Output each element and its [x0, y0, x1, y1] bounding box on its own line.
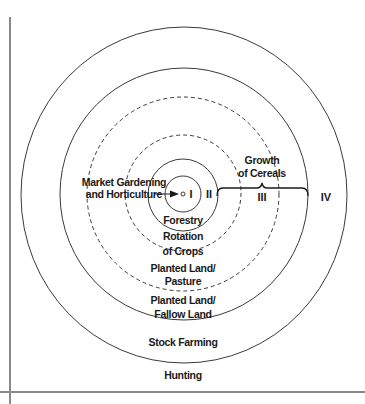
label-rotation: Rotation	[163, 230, 203, 242]
label-fallow-land: Fallow Land	[154, 308, 211, 320]
label-planted-land-fallow: Planted Land/	[151, 294, 216, 306]
label-hunting: Hunting	[164, 369, 202, 381]
zone-numeral-IV: IV	[321, 191, 332, 203]
label-forestry: Forestry	[163, 214, 203, 226]
label-market-gardening: Market Gardening	[82, 176, 166, 188]
zone-numeral-III: III	[257, 191, 266, 203]
city-center-icon	[181, 192, 185, 196]
label-horticulture: and Horticulture	[86, 188, 163, 200]
zone-numeral-II: II	[206, 188, 212, 200]
label-growth: Growth	[245, 154, 280, 166]
label-of-cereals: of Cereals	[238, 167, 286, 179]
concentric-zones-diagram: I II III IV Market Gardening and Horticu…	[0, 0, 365, 404]
label-of-crops: of Crops	[163, 245, 204, 257]
zone-numeral-I: I	[189, 188, 192, 200]
label-pasture: Pasture	[165, 275, 202, 287]
label-stock-farming: Stock Farming	[148, 336, 217, 348]
label-planted-land-pasture: Planted Land/	[151, 262, 216, 274]
